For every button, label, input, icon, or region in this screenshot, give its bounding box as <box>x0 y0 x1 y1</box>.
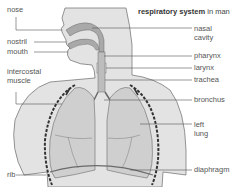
label-lung-2: lung <box>194 130 208 138</box>
label-nasal-1: nasal <box>194 25 212 33</box>
label-rib: rib <box>7 171 15 179</box>
label-nose: nose <box>7 6 23 14</box>
label-intercostal-2: muscle <box>7 77 31 85</box>
label-intercostal-1: intercostal <box>7 68 41 76</box>
label-bronchus: bronchus <box>194 96 225 104</box>
title-rest: in man <box>205 7 230 16</box>
respiratory-diagram: respiratory system in man nose nostril m… <box>0 0 243 187</box>
label-lung-1: left <box>194 121 204 129</box>
label-pharynx: pharynx <box>194 52 221 60</box>
label-trachea: trachea <box>194 76 219 84</box>
label-nostril: nostril <box>7 38 27 46</box>
diagram-title: respiratory system in man <box>138 7 230 16</box>
label-nasal-2: cavity <box>194 34 213 42</box>
label-diaphragm: diaphragm <box>194 166 229 174</box>
label-mouth: mouth <box>7 48 28 56</box>
title-bold: respiratory system <box>138 7 205 16</box>
label-larynx: larynx <box>194 64 214 72</box>
trachea-shape <box>98 52 105 92</box>
